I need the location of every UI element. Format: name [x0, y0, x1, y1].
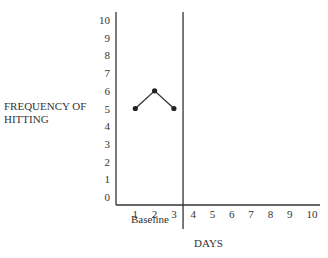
data-point — [152, 88, 157, 93]
phase-label: Baseline — [131, 213, 169, 226]
x-tick-label: 10 — [307, 208, 319, 220]
x-tick-label: 9 — [287, 208, 293, 220]
x-axis-label: DAYS — [194, 237, 223, 250]
y-tick-label: 5 — [105, 103, 111, 115]
y-tick-label: 2 — [105, 156, 111, 168]
x-tick-label: 8 — [268, 208, 274, 220]
y-axis-label-line2: HITTING — [4, 113, 49, 126]
x-tick-label: 7 — [248, 208, 254, 220]
data-point — [133, 106, 138, 111]
x-tick-label: 5 — [210, 208, 216, 220]
y-tick-label: 9 — [105, 32, 111, 44]
x-tick-label: 4 — [190, 208, 196, 220]
y-tick-label: 10 — [99, 14, 111, 26]
y-axis-label-line1: FREQUENCY OF — [4, 100, 86, 113]
data-point — [171, 106, 176, 111]
data-line — [135, 91, 174, 109]
y-tick-label: 1 — [105, 173, 111, 185]
x-tick-label: 6 — [229, 208, 235, 220]
y-tick-label: 8 — [105, 49, 111, 61]
y-tick-label: 4 — [105, 120, 111, 132]
y-tick-label: 3 — [105, 138, 111, 150]
y-tick-label: 6 — [105, 85, 111, 97]
x-tick-label: 3 — [171, 208, 177, 220]
y-tick-label: 7 — [105, 67, 111, 79]
y-tick-label: 0 — [105, 191, 111, 203]
